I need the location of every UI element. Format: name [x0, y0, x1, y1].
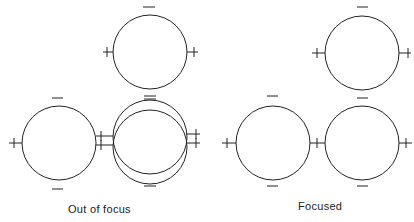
circle-bottom-left [236, 106, 310, 180]
circle-overlap-upper [113, 100, 187, 174]
circle-top [113, 15, 187, 89]
out-of-focus-label: Out of focus [68, 203, 131, 215]
focused-diagram [222, 7, 412, 186]
out-of-focus-diagram [9, 7, 200, 189]
circle-top [325, 16, 399, 90]
focused-label: Focused [298, 200, 342, 212]
circle-bottom-left [22, 106, 96, 180]
diagram-canvas [0, 0, 414, 222]
circle-bottom-right [325, 106, 399, 180]
circle-overlap-lower [113, 110, 187, 184]
